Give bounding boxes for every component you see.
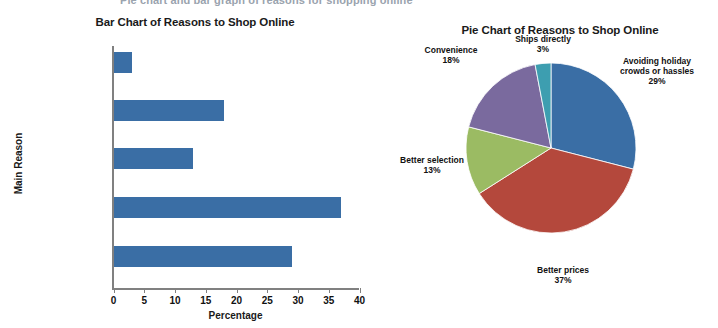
bar-chart-x-tick-label: 10	[160, 295, 190, 306]
bar-chart-x-tick-label: 35	[314, 295, 344, 306]
pie-chart-graphic	[466, 63, 636, 233]
bar-chart-x-tick-label: 5	[129, 295, 159, 306]
pie-label-name: Better prices	[510, 265, 616, 275]
bar-chart-x-tick-label: 40	[345, 295, 375, 306]
bar-chart-x-tick-label: 15	[191, 295, 221, 306]
bar-chart-x-tick-label: 30	[283, 295, 313, 306]
pie-label-name: Ships directly	[498, 34, 588, 44]
pie-label-percent: 29%	[602, 76, 712, 86]
bar-chart-y-axis-label: Main Reason	[13, 119, 24, 209]
pie-label-better-prices: Better prices 37%	[510, 265, 616, 285]
bar-convenience	[114, 100, 225, 121]
bar-chart-x-tick	[114, 288, 115, 293]
pie-label-name: Convenience	[407, 45, 495, 55]
pie-label-convenience: Convenience 18%	[407, 45, 495, 65]
bar-avoiding-holiday	[114, 246, 292, 267]
pie-label-better-selection: Better selection 13%	[380, 155, 484, 175]
bar-chart-title: Bar Chart of Reasons to Shop Online	[30, 16, 360, 28]
bar-chart-x-tick	[144, 288, 145, 293]
bar-chart-x-axis-label: Percentage	[112, 310, 359, 321]
bar-chart-x-tick	[329, 288, 330, 293]
pie-label-avoiding-holiday-crowds: Avoiding holiday crowds or hassles 29%	[602, 56, 712, 86]
pie-label-percent: 3%	[498, 44, 588, 54]
pie-label-name-line1: Avoiding holiday	[602, 56, 712, 66]
pie-label-percent: 13%	[380, 165, 484, 175]
bar-chart-x-tick	[267, 288, 268, 293]
bar-chart-x-tick-label: 0	[99, 295, 129, 306]
bar-chart-x-tick	[237, 288, 238, 293]
pie-chart-figure: Pie Chart of Reasons to Shop Online Ship…	[380, 0, 718, 328]
pie-label-ships-directly: Ships directly 3%	[498, 34, 588, 54]
pie-label-percent: 37%	[510, 275, 616, 285]
bar-chart-x-tick	[175, 288, 176, 293]
bar-chart-x-axis-line	[112, 288, 359, 290]
bar-better-selection	[114, 148, 194, 169]
pie-label-name-line2: crowds or hassles	[602, 66, 712, 76]
bar-chart-figure: Bar Chart of Reasons to Shop Online Main…	[0, 0, 400, 328]
bar-chart-x-tick-label: 25	[252, 295, 282, 306]
pie-label-percent: 18%	[407, 55, 495, 65]
bar-chart-x-tick	[206, 288, 207, 293]
bar-chart-x-tick-label: 20	[222, 295, 252, 306]
bar-chart-x-tick	[298, 288, 299, 293]
bar-chart-x-tick	[360, 288, 361, 293]
pie-label-name: Better selection	[380, 155, 484, 165]
bar-ships-directly	[114, 52, 132, 73]
bar-better-prices	[114, 197, 342, 218]
